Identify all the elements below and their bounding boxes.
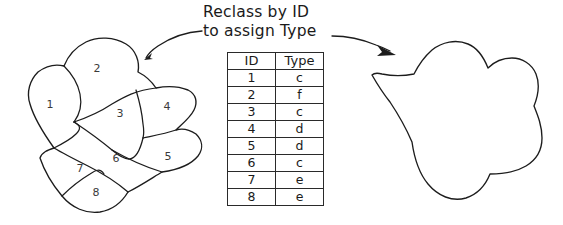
region-label-6: 6: [113, 152, 120, 165]
cell-id: 1: [228, 70, 276, 87]
table-row: 4 d: [228, 121, 324, 138]
arrow-to-result-head: [377, 45, 396, 56]
region-label-8: 8: [93, 186, 100, 199]
table-row: 5 d: [228, 138, 324, 155]
arrow-to-result: [332, 36, 396, 56]
column-header-id: ID: [228, 53, 276, 70]
cell-id: 2: [228, 87, 276, 104]
table-row: 2 f: [228, 87, 324, 104]
region-label-4: 4: [164, 100, 171, 113]
cell-type: c: [276, 104, 324, 121]
region-label-3: 3: [117, 107, 124, 120]
table-row: 8 e: [228, 189, 324, 206]
cell-type: e: [276, 189, 324, 206]
arrow-to-source: [144, 31, 202, 60]
subdivided-polygon-outline: [28, 38, 201, 212]
table-row: 6 c: [228, 155, 324, 172]
cell-id: 5: [228, 138, 276, 155]
cell-type: d: [276, 138, 324, 155]
cell-id: 8: [228, 189, 276, 206]
subdivided-polygon: 1 2 3 4 5 6 7 8: [28, 38, 201, 212]
cell-type: e: [276, 172, 324, 189]
cell-type: f: [276, 87, 324, 104]
cell-id: 3: [228, 104, 276, 121]
column-header-type: Type: [276, 53, 324, 70]
region-label-7: 7: [77, 162, 84, 175]
table-header-row: ID Type: [228, 53, 324, 70]
cell-id: 7: [228, 172, 276, 189]
merged-polygon-outline: [372, 42, 542, 200]
table-row: 3 c: [228, 104, 324, 121]
cell-id: 6: [228, 155, 276, 172]
table-row: 7 e: [228, 172, 324, 189]
cell-type: d: [276, 121, 324, 138]
table-row: 1 c: [228, 70, 324, 87]
region-label-1: 1: [47, 98, 54, 111]
region-label-2: 2: [94, 62, 101, 75]
cell-type: c: [276, 155, 324, 172]
cell-type: c: [276, 70, 324, 87]
merged-polygon: [372, 42, 542, 200]
lookup-table: ID Type 1 c 2 f 3 c 4 d 5 d: [227, 52, 324, 206]
cell-id: 4: [228, 121, 276, 138]
arrow-to-source-line: [146, 31, 202, 58]
region-label-5: 5: [165, 150, 172, 163]
diagram-canvas: Reclass by ID to assign Type 1 2 3 4 5 6…: [0, 0, 563, 225]
